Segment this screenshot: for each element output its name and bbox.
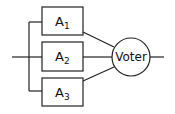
tmr-diagram: A1 A2 A3 Voter: [0, 0, 175, 114]
module-1-to-voter: [83, 32, 114, 47]
module-3-to-voter: [83, 67, 114, 81]
voter-label: Voter: [115, 50, 147, 64]
